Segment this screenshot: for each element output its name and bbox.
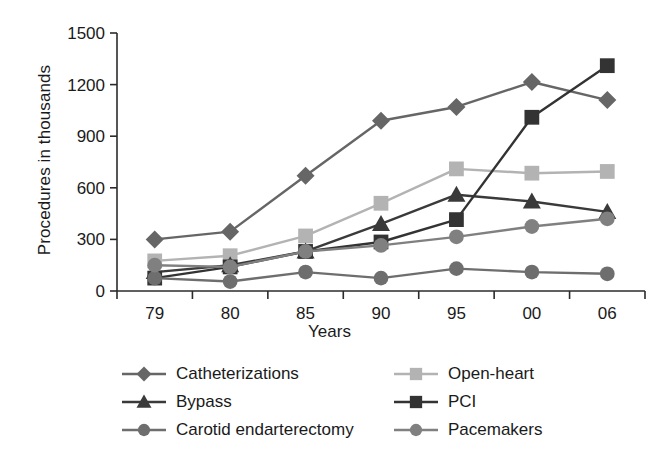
- legend-marker-triangle-icon: [120, 392, 168, 412]
- data-point: [449, 212, 464, 227]
- data-point: [524, 110, 539, 125]
- legend-item-open-heart[interactable]: Open-heart: [392, 364, 640, 384]
- data-point: [600, 58, 615, 73]
- data-point: [372, 112, 390, 130]
- data-point: [221, 223, 239, 241]
- x-tick-label: 95: [447, 304, 466, 320]
- legend-label: Carotid endarterectomy: [176, 420, 354, 440]
- x-tick-label: 00: [522, 304, 541, 320]
- legend-item-pacemakers[interactable]: Pacemakers: [392, 420, 640, 440]
- y-tick-label: 600: [77, 179, 105, 198]
- data-point: [297, 167, 315, 185]
- data-point: [447, 98, 465, 116]
- x-tick-label: 06: [598, 304, 617, 320]
- y-tick-label: 300: [77, 230, 105, 249]
- data-point: [298, 229, 313, 244]
- y-axis-ticks: 030060090012001500: [67, 24, 117, 301]
- plot-area: 030060090012001500 79808590950006: [0, 0, 659, 320]
- data-point: [147, 258, 162, 273]
- y-tick-label: 1500: [67, 24, 105, 43]
- x-tick-label: 80: [221, 304, 240, 320]
- data-point: [449, 162, 464, 177]
- data-point: [374, 238, 389, 253]
- data-point: [449, 261, 464, 276]
- y-tick-label: 900: [77, 127, 105, 146]
- legend-marker-diamond-icon: [120, 364, 168, 384]
- legend-marker-square-icon: [392, 392, 440, 412]
- data-point: [524, 166, 539, 181]
- legend-label: Pacemakers: [448, 420, 542, 440]
- x-tick-label: 85: [296, 304, 315, 320]
- chart-legend: CatheterizationsOpen-heartBypassPCICarot…: [120, 360, 640, 444]
- data-point: [524, 265, 539, 280]
- data-point: [600, 211, 615, 226]
- legend-item-pci[interactable]: PCI: [392, 392, 640, 412]
- series-layer: [146, 58, 617, 289]
- y-tick-label: 0: [96, 282, 105, 301]
- data-point: [524, 219, 539, 234]
- legend-label: Catheterizations: [176, 364, 299, 384]
- data-point: [146, 230, 164, 248]
- data-point: [298, 265, 313, 280]
- legend-item-catheterizations[interactable]: Catheterizations: [120, 364, 392, 384]
- legend-item-bypass[interactable]: Bypass: [120, 392, 392, 412]
- data-point: [374, 271, 389, 286]
- data-point: [600, 164, 615, 179]
- data-point: [223, 260, 238, 275]
- x-axis-ticks: 79808590950006: [117, 291, 645, 320]
- data-point: [600, 266, 615, 281]
- legend-marker-square-icon: [392, 364, 440, 384]
- legend-label: Open-heart: [448, 364, 534, 384]
- legend-marker-circle-icon: [392, 420, 440, 440]
- data-point: [298, 244, 313, 259]
- x-tick-label: 79: [145, 304, 164, 320]
- legend-marker-circle-icon: [120, 420, 168, 440]
- legend-label: PCI: [448, 392, 476, 412]
- data-point: [374, 196, 389, 211]
- line-chart: Procedures in thousands 0300600900120015…: [0, 0, 659, 455]
- data-point: [447, 186, 465, 202]
- data-point: [147, 271, 162, 286]
- data-point: [223, 274, 238, 289]
- data-point: [449, 229, 464, 244]
- x-tick-label: 90: [372, 304, 391, 320]
- x-axis-title: Years: [0, 322, 659, 342]
- data-point: [523, 73, 541, 91]
- data-point: [372, 215, 390, 231]
- y-tick-label: 1200: [67, 76, 105, 95]
- data-point: [598, 91, 616, 109]
- legend-item-carotid-endarterectomy[interactable]: Carotid endarterectomy: [120, 420, 392, 440]
- legend-label: Bypass: [176, 392, 232, 412]
